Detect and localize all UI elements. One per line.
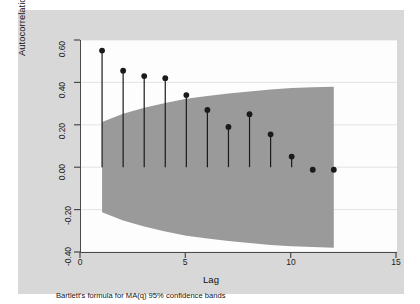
acf-marker <box>289 154 295 160</box>
y-axis-ticks <box>72 38 82 256</box>
acf-marker <box>310 167 316 173</box>
acf-marker <box>268 131 274 137</box>
y-tick-label-3: 0.00 <box>57 164 67 194</box>
confidence-band <box>102 87 334 248</box>
plot-area <box>80 40 397 253</box>
y-axis-title: Autocorrelations of ehat <box>16 0 27 56</box>
x-tick-label-0: 0 <box>78 257 83 267</box>
acf-marker <box>162 75 168 81</box>
acf-marker <box>183 92 189 98</box>
x-axis-ticks <box>78 252 400 260</box>
chart-note: Bartlett's formula for MA(q) 95% confide… <box>56 291 225 300</box>
acf-marker <box>247 111 253 117</box>
acf-marker <box>331 167 337 173</box>
x-tick-label-1: 5 <box>183 257 188 267</box>
acf-marker <box>226 124 232 130</box>
acf-marker <box>205 107 211 113</box>
x-tick-label-3: 15 <box>391 257 400 267</box>
y-tick-label-1: 0.40 <box>57 82 67 112</box>
acf-plot-svg <box>81 40 397 252</box>
acf-marker <box>120 68 126 74</box>
x-axis-title: Lag <box>18 274 404 285</box>
chart-canvas: Autocorrelations of ehat 0.60 0.40 0.20 … <box>0 0 420 304</box>
acf-marker <box>99 48 105 54</box>
x-tick-label-2: 10 <box>286 257 295 267</box>
y-tick-label-2: 0.20 <box>57 123 67 153</box>
y-tick-label-0: 0.60 <box>57 41 67 71</box>
acf-marker <box>141 73 147 79</box>
confidence-band-area <box>102 87 334 248</box>
graph-region: Autocorrelations of ehat 0.60 0.40 0.20 … <box>18 10 404 294</box>
